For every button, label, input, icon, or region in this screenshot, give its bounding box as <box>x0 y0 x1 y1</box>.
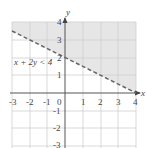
svg-text:-2: -2 <box>26 97 34 107</box>
svg-text:4: 4 <box>133 97 138 107</box>
x-axis-label: x <box>140 88 145 98</box>
y-axis-label: y <box>65 7 70 17</box>
svg-text:-2: -2 <box>53 123 61 133</box>
svg-text:3: 3 <box>57 35 62 45</box>
y-axis-arrow-icon <box>63 17 68 23</box>
svg-text:1: 1 <box>57 70 62 80</box>
inequality-annotation: x + 2y < 4 <box>13 57 53 67</box>
svg-text:4: 4 <box>57 17 62 27</box>
svg-text:-3: -3 <box>9 97 17 107</box>
x-tick-labels: -3 -2 -1 0 1 2 3 4 <box>9 97 138 107</box>
svg-text:1: 1 <box>81 97 86 107</box>
svg-text:2: 2 <box>98 97 103 107</box>
svg-text:-1: -1 <box>53 106 61 116</box>
svg-text:-3: -3 <box>53 140 61 148</box>
svg-text:2: 2 <box>57 53 62 63</box>
svg-text:-1: -1 <box>43 97 51 107</box>
svg-text:3: 3 <box>116 97 121 107</box>
inequality-graph: x y -3 -2 -1 0 1 2 3 4 4 3 2 1 -1 -2 -3 … <box>0 0 147 148</box>
